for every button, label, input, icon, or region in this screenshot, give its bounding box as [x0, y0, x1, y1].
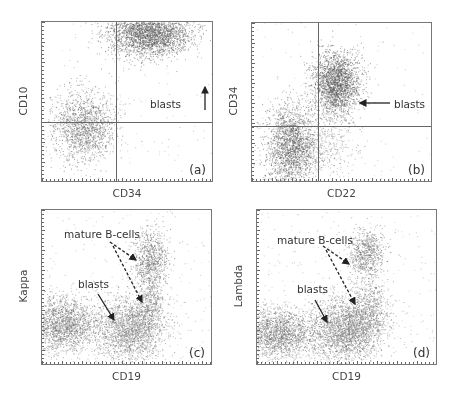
annotation-label: mature B-cells — [277, 234, 353, 246]
quadrant-gate-vertical — [116, 22, 117, 181]
scatter-plot-canvas — [42, 22, 212, 181]
quadrant-gate-vertical — [318, 23, 319, 181]
y-axis-label: CD10 — [17, 71, 29, 131]
y-axis-label: Lambda — [232, 256, 244, 316]
scatter-panel-b: (b) blasts — [251, 22, 432, 182]
panel-label: (d) — [413, 346, 430, 360]
scatter-panel-a: (a) blasts — [41, 21, 213, 182]
x-axis-label: CD22 — [302, 187, 382, 199]
y-axis-label: Kappa — [17, 256, 29, 316]
scatter-panel-d: (d) mature B-cellsblasts — [256, 209, 437, 365]
y-axis-label: CD34 — [227, 71, 239, 131]
annotation-label: blasts — [78, 278, 109, 290]
scatter-panel-c: (c) mature B-cellsblasts — [41, 209, 212, 365]
panel-label: (c) — [189, 346, 205, 360]
x-axis-label: CD19 — [307, 370, 387, 382]
quadrant-gate-horizontal — [42, 122, 212, 123]
panel-label: (a) — [189, 163, 206, 177]
annotation-label: blasts — [394, 98, 425, 110]
quadrant-gate-horizontal — [252, 126, 431, 127]
panel-label: (b) — [408, 163, 425, 177]
annotation-label: mature B-cells — [64, 228, 140, 240]
annotation-label: blasts — [297, 283, 328, 295]
annotation-label: blasts — [150, 98, 181, 110]
x-axis-label: CD19 — [87, 370, 167, 382]
x-axis-label: CD34 — [87, 187, 167, 199]
